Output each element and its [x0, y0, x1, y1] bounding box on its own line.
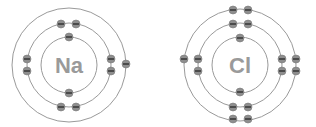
electron-icon: [180, 55, 188, 63]
electron-icon: [57, 103, 65, 111]
electron-icon: [244, 6, 252, 14]
electron-icon: [107, 67, 115, 75]
electron-icon: [278, 55, 286, 63]
electron-icon: [122, 60, 130, 68]
bohr-diagram: Na Cl: [0, 0, 316, 127]
atom-sodium: Na: [12, 8, 130, 122]
electron-icon: [57, 20, 65, 28]
atom-chlorine: Cl: [180, 6, 300, 123]
electron-icon: [292, 55, 300, 63]
electron-icon: [244, 115, 252, 123]
electron-icon: [244, 103, 252, 111]
electron-icon: [65, 89, 73, 97]
electron-icon: [236, 88, 244, 96]
electron-icon: [72, 20, 80, 28]
electron-icon: [229, 115, 237, 123]
electron-icon: [23, 67, 31, 75]
electron-icon: [65, 33, 73, 41]
electron-icon: [23, 55, 31, 63]
electron-icon: [244, 20, 252, 28]
electron-icon: [292, 67, 300, 75]
electron-icon: [229, 20, 237, 28]
electron-icon: [229, 103, 237, 111]
electron-icon: [72, 103, 80, 111]
element-symbol-cl: Cl: [229, 53, 251, 78]
element-symbol-na: Na: [55, 53, 84, 78]
electron-icon: [194, 67, 202, 75]
electron-icon: [107, 55, 115, 63]
electron-icon: [229, 6, 237, 14]
electron-icon: [236, 34, 244, 42]
electron-icon: [278, 67, 286, 75]
electron-icon: [194, 55, 202, 63]
